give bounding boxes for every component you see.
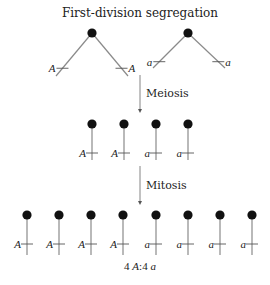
- allele-label: a: [241, 238, 247, 250]
- allele-label: a: [145, 238, 151, 250]
- allele-label: A: [110, 147, 118, 159]
- allele-label: A: [128, 62, 136, 74]
- chromatid-arm: [56, 33, 92, 76]
- centromere-dot: [118, 210, 127, 219]
- chromatid: A: [110, 119, 130, 160]
- allele-label: a: [145, 147, 151, 159]
- centromere-dot: [86, 210, 95, 219]
- allele-label: a: [225, 56, 231, 68]
- allele-label: A: [45, 238, 53, 250]
- chromatid: A: [45, 210, 65, 255]
- chromatid: A: [77, 210, 97, 255]
- centromere-dot: [54, 210, 63, 219]
- chromatid: a: [145, 210, 163, 255]
- arrowhead-icon: [138, 109, 142, 113]
- diagram-title: First-division segregation: [62, 6, 218, 20]
- step-label: Meiosis: [146, 87, 189, 100]
- meiosis-products: AAaa: [78, 119, 194, 160]
- step-label: Mitosis: [146, 179, 187, 192]
- chromatid: A: [13, 210, 33, 255]
- allele-label: A: [48, 62, 56, 74]
- step-mitosis: Mitosis: [138, 166, 187, 205]
- centromere-dot: [183, 210, 192, 219]
- allele-label: a: [147, 56, 153, 68]
- allele-label: A: [77, 238, 85, 250]
- centromere-dot: [119, 119, 128, 128]
- chromatid: A: [78, 119, 98, 160]
- centromere-dot: [247, 210, 256, 219]
- centromere-dot: [183, 28, 192, 37]
- centromere-dot: [183, 119, 192, 128]
- allele-label: a: [177, 238, 183, 250]
- chromosome-pair: AA: [48, 28, 136, 76]
- division-steps: MeiosisMitosis: [138, 75, 189, 205]
- first-division-segregation-diagram: First-division segregation AAaa MeiosisM…: [0, 0, 270, 285]
- allele-label: A: [13, 238, 21, 250]
- centromere-dot: [151, 210, 160, 219]
- arrowhead-icon: [138, 201, 142, 205]
- step-meiosis: Meiosis: [138, 75, 189, 113]
- chromatid-arm: [92, 33, 128, 76]
- chromatid: a: [177, 210, 195, 255]
- allele-label: a: [177, 147, 183, 159]
- parental-chromosome-pairs: AAaa: [48, 28, 232, 76]
- centromere-dot: [22, 210, 31, 219]
- centromere-dot: [87, 119, 96, 128]
- mitosis-products: AAAAaaaa: [13, 210, 258, 255]
- chromatid-arm: [188, 33, 225, 68]
- segregation-ratio: 4 A:4 a: [124, 260, 156, 272]
- ratio-allele-a: a: [150, 260, 156, 272]
- ratio-count-A: 4: [124, 260, 130, 272]
- chromatid: a: [241, 210, 259, 255]
- chromatid-arm: [153, 33, 188, 68]
- centromere-dot: [215, 210, 224, 219]
- chromatid: A: [109, 210, 129, 255]
- chromosome-pair: aa: [147, 28, 232, 68]
- chromatid: a: [209, 210, 227, 255]
- centromere-dot: [151, 119, 160, 128]
- allele-label: A: [78, 147, 86, 159]
- allele-label: a: [209, 238, 215, 250]
- allele-label: A: [109, 238, 117, 250]
- centromere-dot: [87, 28, 96, 37]
- chromatid: a: [145, 119, 163, 160]
- chromatid: a: [177, 119, 195, 160]
- ratio-count-a: 4: [142, 260, 148, 272]
